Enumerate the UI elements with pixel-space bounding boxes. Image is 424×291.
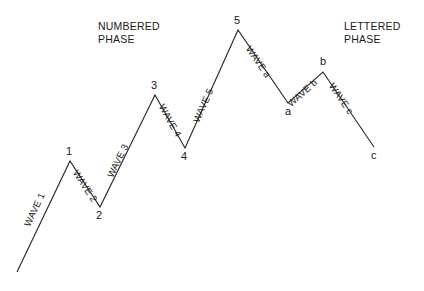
elliott-wave-diagram: NUMBERED PHASE LETTERED PHASE 1 2 3 4 5 … [0,0,424,291]
lettered-phase-heading: LETTERED PHASE [344,20,400,45]
vertex-label-1: 1 [66,146,72,157]
vertex-label-2: 2 [96,210,102,221]
vertex-label-5: 5 [234,15,240,26]
vertex-label-b: b [320,56,326,67]
vertex-label-a: a [285,106,291,117]
vertex-label-c: c [371,150,377,161]
vertex-label-4: 4 [181,151,187,162]
vertex-label-3: 3 [151,80,157,91]
numbered-phase-heading: NUMBERED PHASE [98,20,160,45]
